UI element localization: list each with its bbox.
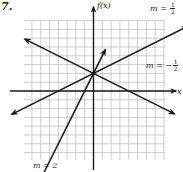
intercept-point bbox=[92, 72, 96, 76]
graph-canvas bbox=[0, 0, 183, 172]
x-axis-label-text: x bbox=[177, 87, 182, 96]
grid bbox=[24, 21, 165, 160]
problem-number: 7. bbox=[1, 0, 12, 13]
axes bbox=[10, 7, 176, 170]
slope-neg-half-text: m = − bbox=[146, 61, 172, 70]
label-slope-two: m = 2 bbox=[33, 162, 57, 170]
frac-den: 2 bbox=[174, 66, 178, 72]
slope-half-text: m = bbox=[150, 4, 169, 13]
slope-lines bbox=[12, 26, 183, 172]
y-axis-label: f(x) bbox=[97, 2, 111, 10]
fraction-half: 12 bbox=[170, 2, 175, 15]
frac-den: 2 bbox=[171, 9, 175, 15]
y-axis-label-text: f(x) bbox=[97, 1, 111, 10]
x-axis-label: x bbox=[177, 88, 182, 96]
slope-two-text: m = 2 bbox=[33, 161, 57, 170]
label-slope-half: m = 12 bbox=[150, 2, 175, 15]
fraction-neg-half: 12 bbox=[173, 59, 178, 72]
label-slope-neg-half: m = −12 bbox=[146, 59, 178, 72]
line-m-1-2 bbox=[25, 39, 175, 114]
